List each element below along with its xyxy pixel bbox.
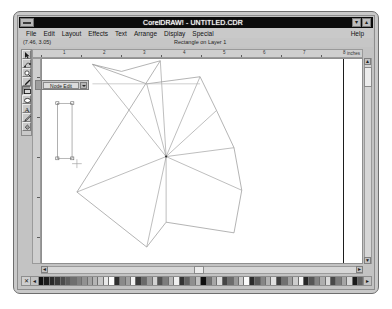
crosshair-cursor [72, 159, 82, 168]
ruler-label-2: 2 [103, 50, 106, 55]
scroll-left-button[interactable]: ◄ [41, 266, 48, 273]
pencil-tool[interactable] [22, 77, 31, 86]
maximize-button[interactable]: ▴ [362, 18, 371, 27]
node-edit-rollup[interactable]: Node Edit [35, 80, 89, 90]
star-polygon [77, 61, 242, 247]
fill-tool[interactable] [22, 122, 31, 131]
zoom-tool[interactable] [22, 68, 31, 77]
pick-tool[interactable] [22, 50, 31, 59]
menu-item-file[interactable]: File [23, 30, 39, 37]
menu-item-layout[interactable]: Layout [59, 30, 85, 37]
window-title: CorelDRAW! - UNTITLED.CDR [34, 19, 352, 26]
ellipse-tool[interactable] [22, 95, 31, 104]
rectangle-tool[interactable] [22, 86, 31, 95]
ruler-label-8: 8 [343, 50, 346, 55]
menu-item-text[interactable]: Text [112, 30, 130, 37]
vertical-scrollbar[interactable]: ▲ ▼ [364, 58, 372, 264]
cursor-coordinates: (7.46, 3.05) [23, 39, 51, 45]
ruler-label-4: 4 [183, 50, 186, 55]
spoke-lines [77, 61, 242, 247]
center-node [165, 156, 167, 158]
horizontal-scrollbar[interactable]: ◄ ► [41, 266, 363, 274]
rollup-grip-handle[interactable] [36, 81, 42, 89]
palette-scroll-left[interactable]: ◄ [31, 277, 39, 285]
svg-text:A: A [25, 106, 30, 113]
vertical-scroll-thumb[interactable] [364, 67, 372, 87]
toolbox: A [21, 49, 32, 136]
drawing-canvas[interactable] [41, 58, 363, 264]
scroll-down-button[interactable]: ▼ [364, 257, 371, 264]
menu-item-arrange[interactable]: Arrange [131, 30, 160, 37]
horizontal-scroll-thumb[interactable] [194, 266, 204, 274]
screenshot-root: CorelDRAW! - UNTITLED.CDR ▾ ▴ File Edit … [0, 0, 392, 309]
palette-scroll-right[interactable]: ► [363, 277, 371, 285]
shape-tool[interactable] [22, 59, 31, 68]
menu-item-display[interactable]: Display [161, 30, 188, 37]
workspace: A [19, 47, 373, 288]
ruler-label-6: 6 [263, 50, 266, 55]
ruler-label-5: 5 [223, 50, 226, 55]
application-window: CorelDRAW! - UNTITLED.CDR ▾ ▴ File Edit … [13, 11, 379, 294]
system-menu-icon[interactable] [20, 18, 34, 27]
selected-rectangle [56, 102, 74, 160]
horizontal-ruler[interactable]: 1 2 3 4 5 6 7 8 inches [32, 49, 363, 58]
menu-item-edit[interactable]: Edit [40, 30, 57, 37]
chevron-down-icon[interactable] [80, 82, 87, 89]
palette-swatch-strip[interactable] [39, 277, 363, 285]
vector-artwork [42, 59, 362, 263]
window-inner-frame: CorelDRAW! - UNTITLED.CDR ▾ ▴ File Edit … [17, 15, 375, 290]
ruler-label-3: 3 [143, 50, 146, 55]
no-fill-swatch[interactable]: ✕ [22, 277, 31, 285]
title-bar[interactable]: CorelDRAW! - UNTITLED.CDR ▾ ▴ [19, 17, 373, 28]
scroll-right-button[interactable]: ► [356, 266, 363, 273]
rollup-value-field[interactable]: Node Edit [43, 82, 79, 89]
menu-item-help[interactable]: Help [348, 30, 367, 37]
page-border-right [343, 59, 344, 263]
window-controls: ▾ ▴ [352, 18, 371, 27]
color-palette[interactable]: ✕ ◄ ► [21, 276, 372, 286]
outline-tool[interactable] [22, 113, 31, 122]
menu-item-effects[interactable]: Effects [85, 30, 111, 37]
ruler-unit-label: inches [347, 51, 360, 56]
selected-object-info: Rectangle on Layer 1 [174, 39, 226, 45]
menu-item-special[interactable]: Special [189, 30, 216, 37]
minimize-button[interactable]: ▾ [352, 18, 361, 27]
scroll-up-button[interactable]: ▲ [364, 58, 371, 65]
ruler-label-7: 7 [303, 50, 306, 55]
ruler-label-1: 1 [63, 50, 66, 55]
text-tool[interactable]: A [22, 104, 31, 113]
